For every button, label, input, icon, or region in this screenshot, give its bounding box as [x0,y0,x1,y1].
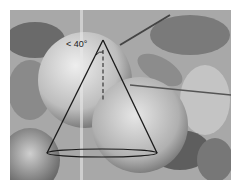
angle-label: < 40° [66,39,87,49]
apple-photo [10,10,231,180]
photo-illustration [10,10,231,180]
